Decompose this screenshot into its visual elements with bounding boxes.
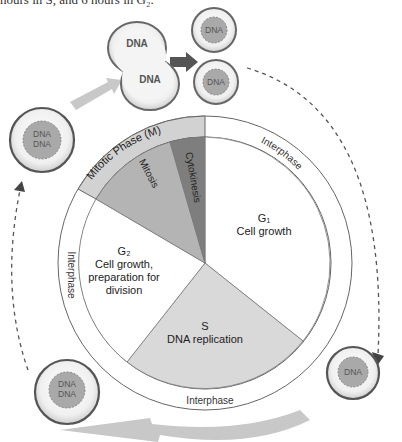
g2-name: G₂ xyxy=(118,245,131,257)
svg-text:DNA: DNA xyxy=(344,367,362,377)
g1-desc: Cell growth xyxy=(236,225,291,237)
s-desc: DNA replication xyxy=(167,333,243,345)
bottom-progress-arrow xyxy=(60,410,310,442)
g1-name: G₁ xyxy=(258,212,271,224)
daughter-cell-1: DNA xyxy=(192,8,236,52)
svg-text:DNA: DNA xyxy=(33,139,51,149)
svg-text:DNA: DNA xyxy=(33,129,51,139)
g2-desc-line1: Cell growth, xyxy=(95,258,153,270)
svg-text:DNA: DNA xyxy=(58,379,76,389)
daughter-cell-2: DNA xyxy=(194,60,238,104)
g1-cell: DNA xyxy=(327,347,379,399)
s-cell: DNA DNA xyxy=(35,360,99,424)
interphase-label-left: Interphase xyxy=(66,251,77,299)
g2-desc-line2: preparation for xyxy=(88,271,160,283)
g2-desc-line3: division xyxy=(106,284,143,296)
cell-cycle-diagram: Mitotic Phase (M) Interphase Interphase … xyxy=(0,0,402,442)
svg-text:DNA: DNA xyxy=(58,389,76,399)
dividing-cell: DNA DNA xyxy=(108,22,179,110)
svg-text:DNA: DNA xyxy=(205,25,223,35)
s-name: S xyxy=(201,320,208,332)
arrowhead-left-icon xyxy=(14,181,25,192)
g2-cell: DNA DNA xyxy=(10,108,74,172)
dividing-cell-dna-top: DNA xyxy=(126,38,148,49)
dividing-cell-dna-bottom: DNA xyxy=(139,74,161,85)
arrow-to-division xyxy=(70,78,122,110)
dashed-arrow-left xyxy=(12,190,28,370)
svg-text:DNA: DNA xyxy=(207,77,225,87)
interphase-label-bottom: Interphase xyxy=(186,395,234,406)
